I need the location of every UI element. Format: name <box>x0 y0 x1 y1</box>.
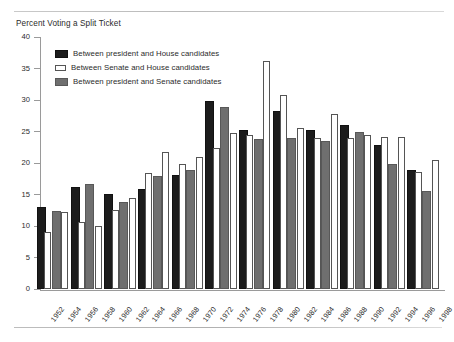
legend-swatch-icon <box>55 65 66 72</box>
bar <box>129 198 136 289</box>
x-tick-label: 1960 <box>116 305 133 324</box>
bar <box>78 222 85 289</box>
bar <box>331 114 338 289</box>
y-tick-label: 5 <box>4 253 30 262</box>
y-tick-label: 40 <box>4 32 30 41</box>
y-tick-label: 15 <box>4 190 30 199</box>
x-axis-tick-labels: 1952195419561958196019621964196619681970… <box>40 292 450 338</box>
bottom-divider-rule <box>14 327 442 328</box>
bar <box>263 61 270 289</box>
x-tick-label: 1996 <box>419 305 436 324</box>
legend-item: Between president and Senate candidates <box>55 76 285 88</box>
chart-legend: Between president and House candidatesBe… <box>55 48 285 90</box>
x-tick-label: 1992 <box>386 305 403 324</box>
bar <box>246 135 253 289</box>
bar-group <box>377 37 394 289</box>
bar <box>432 160 439 289</box>
bar <box>196 157 203 289</box>
x-tick-label: 1952 <box>49 305 66 324</box>
legend-item: Between president and House candidates <box>55 48 285 60</box>
x-tick-label: 1968 <box>184 305 201 324</box>
y-tick-label: 30 <box>4 95 30 104</box>
legend-swatch-icon <box>55 78 68 87</box>
chart-title: Percent Voting a Split Ticket <box>16 19 121 28</box>
top-divider-rule <box>14 11 444 12</box>
legend-label: Between president and House candidates <box>73 49 219 58</box>
bar <box>61 212 68 289</box>
bar-group <box>309 37 326 289</box>
bar <box>297 128 304 289</box>
x-tick-label: 1978 <box>268 305 285 324</box>
bar <box>314 138 321 289</box>
x-tick-label: 1988 <box>352 305 369 324</box>
bar <box>230 133 237 289</box>
x-tick-label: 1974 <box>234 305 251 324</box>
bar-group <box>427 37 444 289</box>
x-tick-label: 1966 <box>167 305 184 324</box>
bar <box>112 210 119 289</box>
x-tick-label: 1990 <box>369 305 386 324</box>
x-tick-label: 1984 <box>318 305 335 324</box>
x-tick-label: 1954 <box>66 305 83 324</box>
y-tick-label: 25 <box>4 127 30 136</box>
bar <box>381 137 388 289</box>
x-tick-label: 1964 <box>150 305 167 324</box>
bar <box>364 135 371 289</box>
bar-group <box>343 37 360 289</box>
bar <box>95 226 102 289</box>
x-axis-line <box>40 290 445 291</box>
y-tick-label: 35 <box>4 64 30 73</box>
bar <box>398 137 405 289</box>
y-tick-label: 20 <box>4 158 30 167</box>
legend-label: Between Senate and House candidates <box>71 63 210 72</box>
x-tick-label: 1970 <box>201 305 218 324</box>
bar <box>44 232 51 289</box>
legend-label: Between president and Senate candidates <box>73 77 221 86</box>
x-tick-label: 1958 <box>100 305 117 324</box>
x-tick-label: 1986 <box>335 305 352 324</box>
legend-item: Between Senate and House candidates <box>55 62 285 74</box>
x-tick-label: 1976 <box>251 305 268 324</box>
x-tick-label: 1956 <box>83 305 100 324</box>
bar <box>179 164 186 289</box>
bar-group <box>410 37 427 289</box>
bar <box>280 95 287 289</box>
bar <box>213 148 220 289</box>
y-tick-label: 0 <box>4 284 30 293</box>
bar <box>162 152 169 289</box>
x-tick-label: 1972 <box>217 305 234 324</box>
legend-swatch-icon <box>55 50 68 59</box>
bar <box>415 172 422 289</box>
bar <box>145 173 152 289</box>
x-tick-label: 1998 <box>436 305 453 324</box>
x-tick-label: 1980 <box>285 305 302 324</box>
x-tick-label: 1982 <box>302 305 319 324</box>
x-tick-label: 1994 <box>403 305 420 324</box>
bar <box>347 138 354 289</box>
x-tick-label: 1962 <box>133 305 150 324</box>
y-tick-label: 10 <box>4 221 30 230</box>
